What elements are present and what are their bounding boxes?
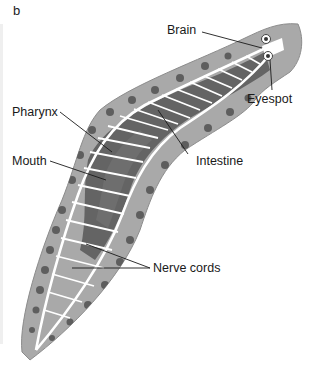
planarian-illustration <box>0 0 311 370</box>
eyespot-right-pupil <box>266 54 270 58</box>
label-brain: Brain <box>167 24 196 37</box>
label-pharynx: Pharynx <box>12 106 58 119</box>
label-eyespot: Eyespot <box>247 93 292 106</box>
eyespot-left-pupil <box>264 37 268 41</box>
label-nerve-cords: Nerve cords <box>153 262 220 275</box>
label-mouth: Mouth <box>12 155 47 168</box>
label-intestine: Intestine <box>196 155 243 168</box>
